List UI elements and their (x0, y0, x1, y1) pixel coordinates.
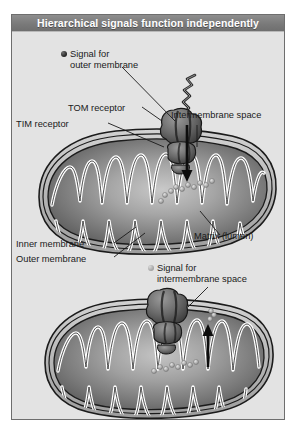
diagram-stage: Signal for outer membrane TOM receptor T… (12, 15, 285, 420)
label-tim-receptor: TIM receptor (16, 119, 69, 130)
label-signal-outer-line1: Signal for (70, 49, 109, 59)
label-inner-membrane: Inner membrane (16, 239, 84, 250)
label-matrix: Matrix (lumen) (194, 231, 253, 242)
label-outer-membrane: Outer membrane (16, 254, 86, 265)
signal-intermembrane-bullet-icon (148, 265, 154, 271)
upper-mitochondrion (39, 75, 276, 255)
label-signal-ims-line1: Signal for (157, 263, 196, 273)
leader-tom (142, 107, 162, 121)
label-signal-ims-line2: intermembrane space (157, 274, 247, 284)
label-signal-outer-membrane: Signal for outer membrane (61, 49, 171, 70)
signal-outer-membrane-bullet-icon (61, 51, 67, 57)
label-intermembrane-space: Intermembrane space (171, 110, 261, 121)
figure-panel: Hierarchical signals function independen… (11, 14, 285, 420)
label-tom-receptor: TOM receptor (68, 103, 125, 114)
leader-signal-outer (122, 67, 175, 121)
lower-mitochondrion (45, 288, 273, 420)
mitochondria-illustration (12, 15, 285, 420)
tom-complex-lower (146, 288, 187, 325)
label-signal-outer-line2: outer membrane (70, 60, 138, 70)
label-signal-intermembrane-space: Signal for intermembrane space (148, 263, 283, 284)
